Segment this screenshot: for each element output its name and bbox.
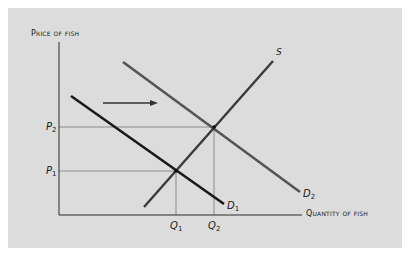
quantity-q2-label: Q2 [208, 221, 220, 233]
price-p1-label: P1 [46, 166, 57, 178]
y-axis-title: Price of fish [31, 29, 79, 38]
supply-curve-s [144, 61, 273, 207]
demand-2-label: D2 [303, 189, 315, 201]
x-axis-title-text: Quantity of fish [306, 209, 368, 218]
demand-1-label: D1 [227, 201, 239, 213]
x-axis-title: Quantity of fish [306, 209, 368, 218]
demand-curve-d1 [71, 96, 224, 204]
y-axis-title-text: Price of fish [31, 29, 79, 38]
supply-demand-diagram [0, 0, 408, 266]
price-p2-label: P2 [46, 122, 57, 134]
demand-shift-arrow-icon [103, 100, 158, 106]
equilibrium-point-1 [174, 169, 178, 173]
supply-label: S [276, 48, 282, 57]
equilibrium-point-2 [212, 125, 216, 129]
quantity-q1-label: Q1 [170, 221, 182, 233]
